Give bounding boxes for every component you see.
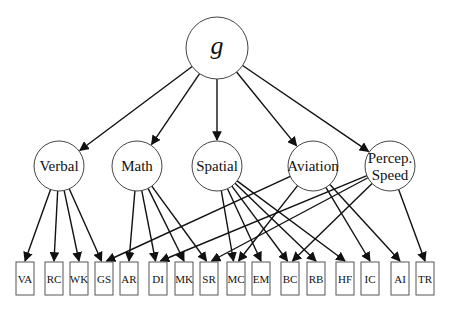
edge-aviation-to-MC [239, 186, 298, 261]
test-node-TR: TR [416, 262, 434, 295]
edge-g-to-percep_speed [243, 65, 369, 151]
test-label: TR [418, 273, 433, 285]
factor-node-spatial: Spatial [192, 141, 242, 191]
test-node-RC: RC [45, 262, 63, 295]
test-label: AR [121, 273, 137, 285]
test-label: RB [309, 273, 324, 285]
edge-percep_speed-to-BC [293, 183, 373, 261]
factor-node-aviation: Aviation [287, 141, 339, 191]
test-label: MC [227, 273, 244, 285]
factor-label: Percep. [368, 150, 413, 166]
test-label: SR [202, 273, 216, 285]
test-label: GS [97, 273, 111, 285]
test-label: IC [365, 273, 376, 285]
factor-label: Aviation [287, 158, 339, 174]
edge-verbal-to-WK [64, 190, 79, 261]
factor-label: Verbal [39, 158, 78, 174]
test-label: EM [253, 273, 270, 285]
test-label: MK [175, 273, 193, 285]
test-label: AI [394, 273, 406, 285]
test-label: HF [338, 273, 352, 285]
test-node-HF: HF [336, 262, 354, 295]
node-g: g [186, 17, 248, 79]
edge-g-to-math [152, 74, 200, 145]
test-node-MK: MK [175, 262, 193, 295]
factor-node-percep_speed: Percep.Speed [365, 141, 415, 191]
test-node-BC: BC [281, 262, 299, 295]
edge-aviation-to-IC [326, 187, 370, 261]
test-node-MC: MC [227, 262, 245, 295]
test-node-DI: DI [149, 262, 167, 295]
test-label: VA [18, 273, 33, 285]
test-label: BC [283, 273, 298, 285]
edge-verbal-to-RC [54, 191, 58, 261]
factor-label: Speed [372, 167, 409, 183]
factor-node-math: Math [112, 141, 162, 191]
test-node-WK: WK [70, 262, 88, 295]
test-node-VA: VA [16, 262, 34, 295]
test-node-AR: AR [120, 262, 138, 295]
edge-verbal-to-GS [69, 189, 101, 261]
factor-label: Math [121, 158, 153, 174]
factor-node-verbal: Verbal [34, 141, 84, 191]
root-label: g [211, 31, 224, 60]
test-label: RC [47, 273, 62, 285]
test-node-IC: IC [361, 262, 379, 295]
test-node-SR: SR [200, 262, 218, 295]
edge-math-to-DI [142, 191, 156, 261]
test-node-GS: GS [95, 262, 113, 295]
edge-aviation-to-AI [330, 184, 400, 261]
factor-label: Spatial [196, 158, 238, 174]
test-node-AI: AI [391, 262, 409, 295]
factor-diagram: gVerbalMathSpatialAviationPercep.SpeedVA… [0, 0, 449, 310]
test-label: WK [70, 273, 88, 285]
edge-verbal-to-VA [25, 190, 51, 261]
test-node-EM: EM [252, 262, 270, 295]
test-label: DI [152, 273, 164, 285]
test-node-RB: RB [307, 262, 325, 295]
edge-g-to-aviation [237, 72, 297, 146]
edge-percep_speed-to-TR [399, 189, 425, 261]
